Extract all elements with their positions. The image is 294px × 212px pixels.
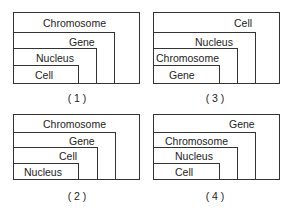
panel-caption: ( 1 ) <box>57 92 97 104</box>
panel-caption: ( 4 ) <box>195 190 235 202</box>
level-4-label: Nucleus <box>24 166 62 178</box>
level-4-label: Gene <box>169 69 195 81</box>
level-1-label: Chromosome <box>43 118 106 130</box>
level-3-label: Chromosome <box>156 52 219 64</box>
level-2-label: Gene <box>69 36 95 48</box>
level-1-label: Cell <box>234 17 252 29</box>
level-3-label: Nucleus <box>175 150 213 162</box>
level-3-label: Nucleus <box>36 52 74 64</box>
level-2-label: Chromosome <box>165 135 228 147</box>
level-4-label: Cell <box>175 166 193 178</box>
level-2-label: Gene <box>69 135 95 147</box>
level-3-label: Cell <box>59 150 77 162</box>
level-2-label: Nucleus <box>195 36 233 48</box>
panel-caption: ( 3 ) <box>195 92 235 104</box>
panel-caption: ( 2 ) <box>57 190 97 202</box>
level-1-label: Chromosome <box>43 17 106 29</box>
level-4-label: Cell <box>35 69 53 81</box>
level-1-label: Gene <box>229 118 255 130</box>
